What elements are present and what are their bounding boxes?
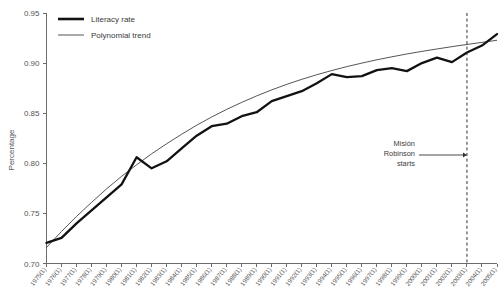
legend-label-literacy-rate: Literacy rate xyxy=(91,15,136,24)
y-axis-title: Percentage xyxy=(7,129,16,170)
y-axis: 0.950.900.850.800.750.70 Percentage xyxy=(7,9,47,269)
y-tick-label: 0.70 xyxy=(24,260,40,269)
chart-canvas: 0.950.900.850.800.750.70 Percentage 1975… xyxy=(0,0,504,307)
series-group xyxy=(47,34,498,247)
y-tick-label: 0.90 xyxy=(24,59,40,68)
y-axis-ticks: 0.950.900.850.800.750.70 xyxy=(24,9,47,269)
annotation-line-2: Robinson xyxy=(384,149,415,158)
annotation-arrow-head xyxy=(463,152,467,157)
y-tick-label: 0.85 xyxy=(24,109,40,118)
chart-legend: Literacy rate Polynomial trend xyxy=(58,15,151,40)
x-tick-label: 2005(1) xyxy=(479,266,499,288)
annotation-line-1: Misión xyxy=(394,139,415,148)
polynomial-trend-line xyxy=(47,40,498,247)
x-axis: 1975(1)1976(1)1977(1)1978(1)1979(1)1980(… xyxy=(28,264,498,288)
y-tick-label: 0.95 xyxy=(24,9,40,18)
x-axis-ticks: 1975(1)1976(1)1977(1)1978(1)1979(1)1980(… xyxy=(28,264,498,288)
literacy-rate-line xyxy=(47,34,498,243)
y-tick-label: 0.75 xyxy=(24,209,40,218)
y-tick-label: 0.80 xyxy=(24,159,40,168)
literacy-rate-chart: 0.950.900.850.800.750.70 Percentage 1975… xyxy=(0,0,504,307)
legend-label-polynomial-trend: Polynomial trend xyxy=(91,31,151,40)
annotation-line-3: starts xyxy=(397,159,415,168)
